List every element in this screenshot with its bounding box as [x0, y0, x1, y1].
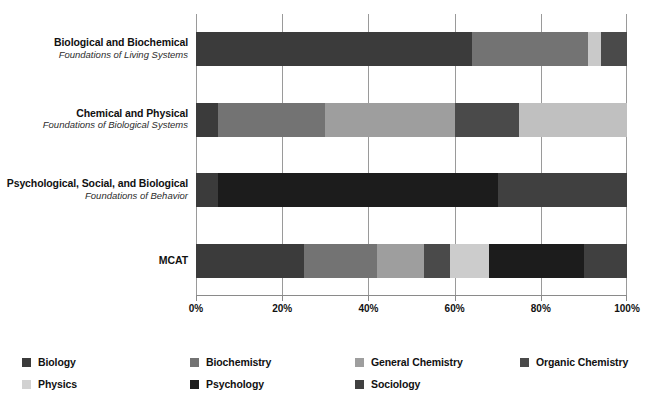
- legend-swatch-icon: [355, 358, 364, 367]
- legend-item-general-chemistry[interactable]: General Chemistry: [355, 356, 463, 368]
- bar-segment-psychology: [489, 244, 584, 278]
- legend-swatch-icon: [355, 380, 364, 389]
- x-axis-tick: [282, 296, 283, 301]
- x-axis-tick-label: 20%: [272, 303, 292, 314]
- legend-item-organic-chemistry[interactable]: Organic Chemistry: [520, 356, 628, 368]
- bar-segment-physics: [450, 244, 489, 278]
- x-axis-tick: [541, 296, 542, 301]
- legend-item-sociology[interactable]: Sociology: [355, 378, 420, 390]
- x-axis-tick: [368, 296, 369, 301]
- x-axis-tick: [626, 296, 627, 301]
- legend-item-psychology[interactable]: Psychology: [190, 378, 264, 390]
- category-label: MCAT: [0, 254, 188, 266]
- category-label-sub: Foundations of Behavior: [0, 190, 188, 201]
- category-label: Psychological, Social, and BiologicalFou…: [0, 177, 188, 201]
- bar-segment-biochemistry: [304, 244, 377, 278]
- bar-segment-organic-chemistry: [601, 32, 627, 66]
- bar-segment-organic-chemistry: [424, 244, 450, 278]
- legend-item-biochemistry[interactable]: Biochemistry: [190, 356, 271, 368]
- legend-swatch-icon: [22, 380, 31, 389]
- plot-area: [196, 14, 627, 296]
- bar-segment-biochemistry: [218, 103, 326, 137]
- bar-segment-general-chemistry: [377, 244, 424, 278]
- bar-segment-physics: [588, 32, 601, 66]
- legend-swatch-icon: [190, 358, 199, 367]
- bar-segment-biochemistry: [472, 32, 588, 66]
- legend-swatch-icon: [190, 380, 199, 389]
- x-axis-tick: [455, 296, 456, 301]
- bar-segment-biology: [196, 32, 472, 66]
- category-label-sub: Foundations of Biological Systems: [0, 119, 188, 130]
- category-label-main: Chemical and Physical: [0, 107, 188, 119]
- bar-segment-sociology: [584, 244, 627, 278]
- legend-label: Physics: [38, 378, 77, 390]
- legend-item-physics[interactable]: Physics: [22, 378, 77, 390]
- category-label: Chemical and PhysicalFoundations of Biol…: [0, 107, 188, 131]
- legend-label: General Chemistry: [371, 356, 463, 368]
- bar-segment-organic-chemistry: [455, 103, 520, 137]
- bar-segment-biology: [196, 173, 218, 207]
- category-label-main: Biological and Biochemical: [0, 36, 188, 48]
- legend-label: Biochemistry: [206, 356, 271, 368]
- bar-segment-sociology: [498, 173, 627, 207]
- bar-segment-general-chemistry: [325, 103, 454, 137]
- legend-swatch-icon: [520, 358, 529, 367]
- stacked-bar: [196, 103, 627, 137]
- chart-legend: BiologyBiochemistryGeneral ChemistryOrga…: [0, 352, 650, 412]
- legend-label: Organic Chemistry: [536, 356, 628, 368]
- x-axis-tick-label: 0%: [189, 303, 203, 314]
- x-axis-tick: [196, 296, 197, 301]
- bar-segment-psychology: [218, 173, 498, 207]
- legend-swatch-icon: [22, 358, 31, 367]
- x-axis-tick-label: 80%: [531, 303, 551, 314]
- bar-segment-biology: [196, 103, 218, 137]
- legend-item-biology[interactable]: Biology: [22, 356, 76, 368]
- stacked-bar: [196, 173, 627, 207]
- x-axis-tick-label: 40%: [358, 303, 378, 314]
- category-label-main: MCAT: [0, 254, 188, 266]
- category-label-main: Psychological, Social, and Biological: [0, 177, 188, 189]
- x-axis-line: [196, 295, 627, 296]
- bar-segment-physics: [519, 103, 627, 137]
- category-label-sub: Foundations of Living Systems: [0, 49, 188, 60]
- bar-segment-biology: [196, 244, 304, 278]
- x-axis-tick-label: 60%: [445, 303, 465, 314]
- category-label: Biological and BiochemicalFoundations of…: [0, 36, 188, 60]
- legend-label: Sociology: [371, 378, 420, 390]
- stacked-bar-chart: Biological and BiochemicalFoundations of…: [0, 0, 650, 330]
- x-axis-tick-label: 100%: [614, 303, 640, 314]
- stacked-bar: [196, 32, 627, 66]
- stacked-bar: [196, 244, 627, 278]
- legend-label: Biology: [38, 356, 76, 368]
- legend-label: Psychology: [206, 378, 264, 390]
